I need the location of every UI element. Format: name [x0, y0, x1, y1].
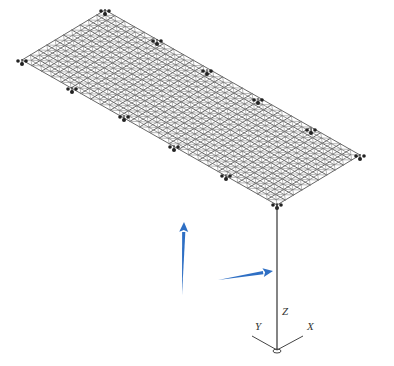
support-icon: [220, 174, 232, 181]
y-axis-line: [252, 336, 277, 350]
vertical-arrow-icon: [179, 222, 188, 295]
support-icon: [354, 154, 366, 161]
axis-label-z: Z: [282, 305, 288, 317]
support-icon: [16, 59, 28, 66]
space-grid-roof: [22, 10, 360, 205]
horizontal-arrow-icon: [218, 268, 273, 280]
axis-label-y: Y: [255, 320, 261, 332]
axis-label-x: X: [307, 320, 314, 332]
support-icon: [66, 87, 78, 94]
x-axis-line: [277, 336, 303, 350]
space-grid-diagram: [0, 0, 394, 366]
support-icon: [118, 115, 130, 122]
arrows: [179, 222, 273, 295]
support-icon: [168, 145, 180, 152]
